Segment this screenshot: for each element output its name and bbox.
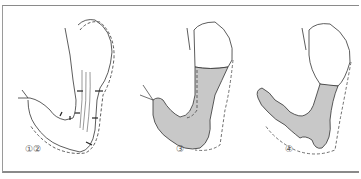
panel-3 [140,22,233,150]
panel-label-4: ④ [285,144,293,154]
contraction-arrows [60,91,103,145]
panel-4 [257,24,351,154]
panel-label-1-2: ①② [25,144,41,154]
panel-label-3: ③ [176,144,184,154]
panel-1-2 [18,20,114,154]
stomach-diagram: ①② ③ ④ [0,0,361,179]
